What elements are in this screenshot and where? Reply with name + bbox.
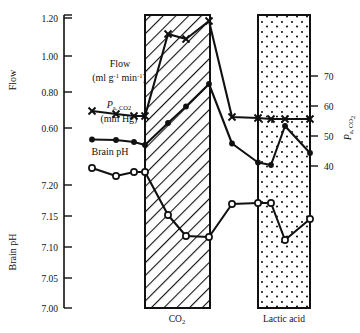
annotation-paco2-units: (mm Hg) [101,113,138,125]
annotation-brain-ph-title: Brain pH [92,146,129,157]
ph-tick-label-2: 7.10 [41,243,58,253]
ph-tick-label-1: 7.15 [41,212,58,222]
band-label-lactic-acid: Lactic acid [263,314,305,324]
ph-tick-label-3: 7.05 [41,274,58,284]
paco2-tick-label-3: 40 [324,162,334,172]
paco2-tick-label-2: 50 [324,132,334,142]
paco2-tick-label-0: 70 [324,72,334,82]
figure-container: 1.20 1.00 0.80 0.60 7.20 7.15 7.10 7.05 … [0,0,360,333]
left-axis-ph-title: Brain pH [7,234,18,271]
ph-tick-label-4: 7.00 [41,304,58,314]
band-lactic-acid [258,15,310,308]
chart-svg: 1.20 1.00 0.80 0.60 7.20 7.15 7.10 7.05 … [0,0,360,333]
annotation-flow-title: Flow [110,58,131,69]
flow-tick-label-3: 0.60 [41,124,58,134]
flow-tick-label-1: 1.00 [41,52,58,62]
band-co2 [145,15,210,308]
ph-tick-label-0: 7.20 [41,181,58,191]
flow-tick-label-2: 0.80 [41,88,58,98]
left-axis-flow-title: Flow [7,69,18,90]
paco2-tick-label-1: 60 [324,102,334,112]
flow-tick-label-0: 1.20 [41,14,58,24]
